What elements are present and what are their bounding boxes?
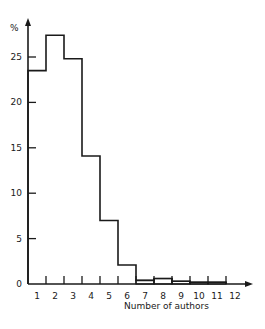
histogram-bars bbox=[28, 35, 226, 284]
y-axis-label: % bbox=[10, 23, 19, 33]
x-tick-label: 4 bbox=[88, 291, 94, 301]
x-tick-label: 12 bbox=[229, 291, 240, 301]
y-tick-label: 25 bbox=[11, 52, 22, 62]
histogram-bar bbox=[136, 280, 154, 284]
histogram-bar bbox=[172, 281, 190, 284]
x-axis-label: Number of authors bbox=[124, 301, 209, 311]
x-tick-label: 10 bbox=[193, 291, 205, 301]
y-axis-arrow-icon bbox=[25, 18, 31, 26]
x-tick-label: 1 bbox=[34, 291, 40, 301]
y-tick-label: 0 bbox=[16, 279, 22, 289]
x-axis-arrow-icon bbox=[245, 281, 253, 287]
x-tick-label: 8 bbox=[160, 291, 166, 301]
x-tick-label: 9 bbox=[178, 291, 184, 301]
axes bbox=[25, 18, 253, 287]
histogram-chart: 0510152025 123456789101112 % Number of a… bbox=[0, 0, 265, 329]
histogram-bar bbox=[154, 279, 172, 284]
y-tick-label: 10 bbox=[11, 188, 23, 198]
y-tick-label: 15 bbox=[11, 143, 22, 153]
y-tick-label: 20 bbox=[11, 97, 23, 107]
x-tick-label: 3 bbox=[70, 291, 76, 301]
histogram-bar bbox=[208, 282, 226, 284]
y-axis-ticks: 0510152025 bbox=[11, 52, 36, 289]
x-tick-label: 11 bbox=[211, 291, 222, 301]
x-tick-label: 2 bbox=[52, 291, 58, 301]
histogram-bar bbox=[190, 282, 208, 284]
x-tick-label: 7 bbox=[142, 291, 148, 301]
x-tick-label: 5 bbox=[106, 291, 112, 301]
y-tick-label: 5 bbox=[16, 234, 22, 244]
histogram-outline bbox=[28, 35, 226, 284]
x-tick-label: 6 bbox=[124, 291, 130, 301]
